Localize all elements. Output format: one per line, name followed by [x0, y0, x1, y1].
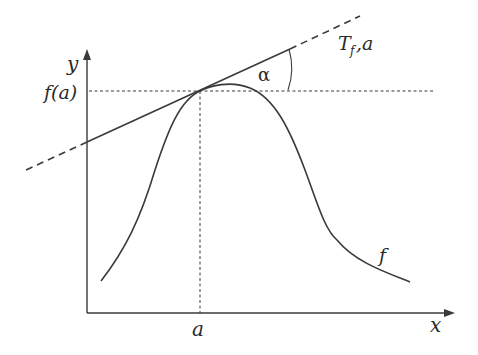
- y-axis-label: y: [66, 52, 79, 76]
- x-axis-label: x: [430, 313, 441, 337]
- f-a-label: f(a): [42, 81, 77, 103]
- angle-label: α: [258, 64, 270, 85]
- tangent-diagram: y f(a) x a α f T f ,a: [0, 0, 478, 355]
- tangent-label: T f ,a: [338, 32, 373, 58]
- tangent-dashed-left: [26, 142, 87, 170]
- curve-label: f: [377, 244, 389, 266]
- y-axis-arrow-icon: [83, 49, 91, 60]
- tangent-solid: [87, 49, 290, 142]
- tangent-label-suffix: ,a: [356, 32, 373, 54]
- angle-arc: [288, 49, 292, 90]
- x-axis-arrow-icon: [444, 309, 455, 317]
- guides: [89, 91, 433, 313]
- a-label: a: [192, 317, 204, 341]
